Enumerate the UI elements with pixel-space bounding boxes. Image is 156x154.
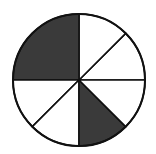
fraction-circle-diagram <box>0 0 156 154</box>
fraction-circle <box>0 0 156 154</box>
